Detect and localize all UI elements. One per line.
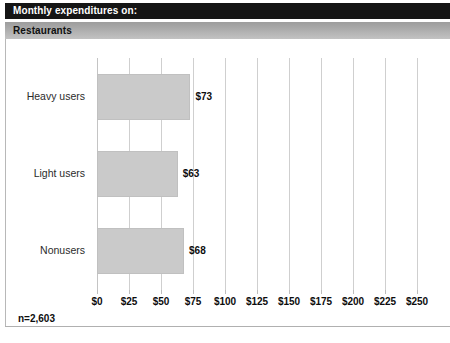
frame-left-border	[5, 39, 6, 326]
gridline	[321, 58, 322, 290]
gridline	[289, 58, 290, 290]
frame-bottom-border	[5, 326, 450, 327]
x-axis-tick-label: $200	[342, 296, 364, 307]
chart-figure: Monthly expenditures on: Restaurants $0$…	[0, 0, 450, 343]
page-title: Monthly expenditures on:	[13, 5, 137, 16]
gridline	[225, 58, 226, 290]
x-axis-tick	[193, 290, 194, 294]
x-axis-tick	[353, 290, 354, 294]
gridline	[353, 58, 354, 290]
gridline	[257, 58, 258, 290]
bar	[97, 228, 184, 274]
bar-value-label: $68	[189, 245, 206, 256]
category-label: Nonusers	[40, 244, 85, 256]
x-axis-tick-label: $150	[278, 296, 300, 307]
x-axis-tick-label: $175	[310, 296, 332, 307]
x-axis-tick	[417, 290, 418, 294]
x-axis-tick	[225, 290, 226, 294]
bar-value-label: $73	[195, 91, 212, 102]
x-axis-tick-label: $75	[185, 296, 202, 307]
category-label: Heavy users	[27, 90, 85, 102]
plot-area: $0$25$50$75$100$125$150$175$200$225$250$…	[97, 58, 417, 290]
x-axis-tick	[129, 290, 130, 294]
x-axis-tick	[257, 290, 258, 294]
chart-title-bar: Monthly expenditures on:	[5, 3, 450, 19]
x-axis-tick	[161, 290, 162, 294]
x-axis-tick	[321, 290, 322, 294]
x-axis-tick	[385, 290, 386, 294]
x-axis-tick-label: $250	[406, 296, 428, 307]
gridline	[417, 58, 418, 290]
sample-size-note: n=2,603	[18, 313, 55, 324]
x-axis-tick-label: $100	[214, 296, 236, 307]
x-axis-tick-label: $125	[246, 296, 268, 307]
bar	[97, 74, 190, 120]
chart-subtitle-bar: Restaurants	[5, 22, 450, 39]
x-axis-tick-label: $25	[121, 296, 138, 307]
category-label: Light users	[34, 167, 85, 179]
x-axis-tick-label: $0	[91, 296, 102, 307]
bar	[97, 151, 178, 197]
x-axis-tick-label: $50	[153, 296, 170, 307]
x-axis-tick	[97, 290, 98, 294]
chart-subtitle: Restaurants	[13, 25, 72, 36]
x-axis-tick	[289, 290, 290, 294]
x-axis-tick-label: $225	[374, 296, 396, 307]
bar-value-label: $63	[183, 168, 200, 179]
gridline	[385, 58, 386, 290]
